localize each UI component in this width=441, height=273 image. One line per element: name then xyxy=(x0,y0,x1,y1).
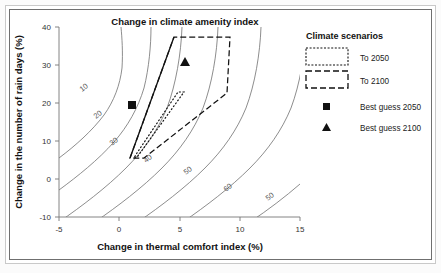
contour-labels: 10 20 30 40 50 60 50 xyxy=(78,81,276,202)
contour-line-50 xyxy=(138,27,261,222)
legend-swatch-best-guess-2100 xyxy=(322,123,331,131)
contour-label-10: 10 xyxy=(78,81,90,93)
plot-area: 10 20 30 40 50 60 50 xyxy=(0,0,441,273)
contour-label-50-lower: 50 xyxy=(264,190,276,202)
x-tick-label-0: 0 xyxy=(117,225,122,234)
legend-title: Climate scenarios xyxy=(306,31,383,41)
axes xyxy=(55,27,300,221)
contour-label-50: 50 xyxy=(182,164,194,176)
x-tick-label-10: 10 xyxy=(236,225,245,234)
contour-line-50-lower xyxy=(250,184,300,222)
y-axis-label: Change in the number of rain days (%) xyxy=(13,35,24,209)
legend: Climate scenarios To 2050 To 2100 Best g… xyxy=(306,31,421,133)
contour-line-20 xyxy=(59,27,151,190)
y-tick-label-20: 20 xyxy=(42,99,51,108)
y-tick-label-40: 40 xyxy=(42,23,51,32)
legend-label-best-guess-2100: Best guess 2100 xyxy=(360,124,421,133)
legend-label-to-2050: To 2050 xyxy=(360,54,390,63)
legend-label-best-guess-2050: Best guess 2050 xyxy=(360,103,421,112)
marker-best-guess-2100 xyxy=(180,57,190,66)
x-tick-label-5: 5 xyxy=(178,225,183,234)
legend-swatch-to-2100 xyxy=(306,71,348,88)
contour-line-40 xyxy=(95,27,218,222)
x-tick-label-15: 15 xyxy=(296,225,305,234)
y-tick-label-30: 30 xyxy=(42,61,51,70)
marker-best-guess-2050 xyxy=(128,101,136,109)
figure-container: 10 20 30 40 50 60 50 xyxy=(0,0,441,273)
data-markers xyxy=(128,57,190,109)
y-tick-label-neg10: -10 xyxy=(39,213,51,222)
contour-label-20: 20 xyxy=(92,108,104,120)
x-axis-label: Change in thermal comfort index (%) xyxy=(97,241,263,252)
chart-title: Change in climate amenity index xyxy=(111,16,259,27)
y-tick-label-0: 0 xyxy=(47,175,52,184)
contour-line-30 xyxy=(59,27,182,222)
x-tick-label-neg5: -5 xyxy=(55,225,63,234)
y-tick-label-10: 10 xyxy=(42,137,51,146)
contour-line-60 xyxy=(183,27,306,222)
legend-swatch-to-2050 xyxy=(306,48,348,65)
x-tick-labels: -5 0 5 10 15 xyxy=(55,225,305,234)
y-tick-labels: 40 30 20 10 0 -10 xyxy=(39,23,51,222)
legend-label-to-2100: To 2100 xyxy=(360,77,390,86)
legend-swatch-best-guess-2050 xyxy=(323,103,330,110)
